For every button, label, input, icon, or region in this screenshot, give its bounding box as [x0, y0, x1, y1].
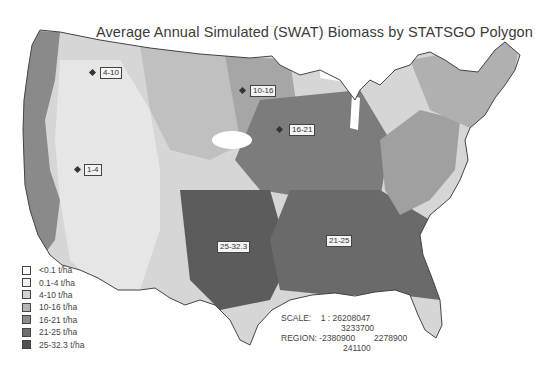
legend-label: 10-16 t/ha	[39, 302, 77, 312]
swatch-icon	[22, 328, 31, 337]
legend-item: <0.1 t/ha	[22, 264, 84, 276]
legend-label: 21-25 t/ha	[39, 327, 77, 337]
region-label-text: REGION:	[281, 333, 317, 343]
region-label: 10-16	[250, 85, 276, 97]
legend-item: 21-25 t/ha	[22, 326, 84, 338]
legend: <0.1 t/ha 0.1-4 t/ha 4-10 t/ha 10-16 t/h…	[22, 264, 84, 351]
legend-item: 0.1-4 t/ha	[22, 276, 84, 288]
region-left-value: -2380900	[319, 333, 355, 343]
legend-item: 25-32.3 t/ha	[22, 338, 84, 350]
legend-label: 0.1-4 t/ha	[39, 278, 75, 288]
legend-item: 10-16 t/ha	[22, 301, 84, 313]
scale-value: 1 : 26208047	[321, 313, 371, 323]
legend-item: 4-10 t/ha	[22, 289, 84, 301]
scale-info: SCALE: 1 : 26208047 3233700 REGION: -238…	[281, 313, 407, 353]
swatch-icon	[22, 266, 31, 275]
region-bottom-value: 241100	[343, 343, 371, 353]
swatch-icon	[22, 315, 31, 324]
legend-label: 16-21 t/ha	[39, 315, 77, 325]
legend-label: <0.1 t/ha	[39, 265, 72, 275]
swatch-icon	[22, 340, 31, 349]
scale-label: SCALE:	[281, 313, 311, 323]
swatch-icon	[22, 290, 31, 299]
legend-item: 16-21 t/ha	[22, 314, 84, 326]
region-label: 4-10	[100, 67, 122, 79]
region-label-25-32: 25-32.3	[217, 241, 250, 253]
region-label: 16-21	[289, 124, 315, 136]
legend-label: 25-32.3 t/ha	[39, 340, 84, 350]
region-label: 1-4	[84, 164, 102, 176]
region-label-21-25: 21-25	[326, 235, 352, 247]
region-top-value: 3233700	[341, 323, 374, 333]
swatch-icon	[22, 303, 31, 312]
legend-label: 4-10 t/ha	[39, 290, 73, 300]
swatch-icon	[22, 278, 31, 287]
region-right-value: 2278900	[374, 333, 407, 343]
